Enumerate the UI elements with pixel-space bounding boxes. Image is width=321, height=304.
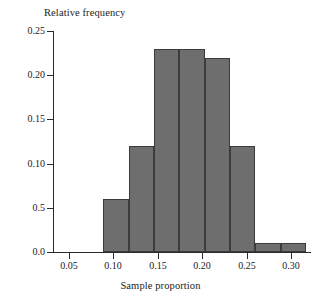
x-tick-label: 0.25 <box>230 261 264 271</box>
x-tick-mark <box>158 253 159 259</box>
y-tick-mark <box>47 75 53 76</box>
histogram-bar <box>179 49 204 252</box>
x-axis-line <box>53 252 311 253</box>
histogram-bar <box>205 58 230 252</box>
x-tick-label: 0.10 <box>96 261 130 271</box>
x-tick-label: 0.15 <box>141 261 175 271</box>
histogram-bar <box>230 146 255 252</box>
y-tick-label: 0.15 <box>15 114 45 124</box>
x-tick-mark <box>69 253 70 259</box>
x-tick-label: 0.05 <box>52 261 86 271</box>
histogram-bar <box>154 49 179 252</box>
y-axis-line <box>53 31 54 253</box>
histogram-bar <box>255 243 280 252</box>
x-tick-mark <box>247 253 248 259</box>
y-tick-mark <box>47 208 53 209</box>
y-tick-label: 0.0 <box>15 247 45 257</box>
y-tick-mark <box>47 164 53 165</box>
x-tick-label: 0.20 <box>185 261 219 271</box>
y-tick-mark <box>47 119 53 120</box>
y-tick-mark <box>47 252 53 253</box>
x-tick-mark <box>291 253 292 259</box>
x-tick-label: 0.30 <box>274 261 308 271</box>
y-axis-title: Relative frequency <box>44 7 125 18</box>
y-tick-label: 0.5 <box>15 203 45 213</box>
y-tick-label: 0.20 <box>15 70 45 80</box>
x-axis-title: Sample proportion <box>0 280 321 291</box>
x-tick-mark <box>113 253 114 259</box>
y-tick-label: 0.10 <box>15 159 45 169</box>
histogram-bar <box>281 243 306 252</box>
y-tick-label: 0.25 <box>15 26 45 36</box>
histogram-figure: Relative frequency 0.250.200.150.100.50.… <box>0 0 321 304</box>
y-tick-mark <box>47 31 53 32</box>
histogram-bar <box>129 146 154 252</box>
histogram-bar <box>103 199 128 252</box>
x-tick-mark <box>202 253 203 259</box>
